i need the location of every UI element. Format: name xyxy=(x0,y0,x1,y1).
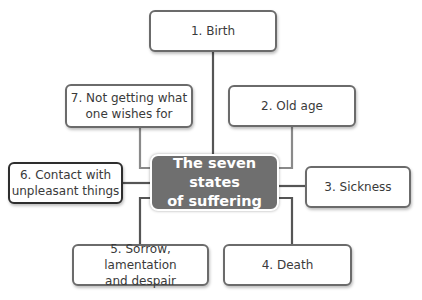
center-title-line1: The seven states xyxy=(152,154,277,192)
center-title-line2: of suffering xyxy=(167,192,262,211)
node-label: 2. Old age xyxy=(261,98,323,114)
node-birth: 1. Birth xyxy=(149,10,277,52)
node-label: 1. Birth xyxy=(191,23,235,39)
node-label: 3. Sickness xyxy=(324,179,391,195)
node-label-line1: 6. Contact with xyxy=(20,167,111,183)
diagram-canvas: 1. Birth 7. Not getting what one wishes … xyxy=(0,0,422,300)
node-contact-unpleasant: 6. Contact with unpleasant things xyxy=(8,162,123,204)
node-label: 4. Death xyxy=(262,257,314,273)
node-old-age: 2. Old age xyxy=(228,85,356,127)
node-death: 4. Death xyxy=(223,244,352,286)
center-node: The seven states of suffering xyxy=(150,154,279,211)
node-not-getting-wishes: 7. Not getting what one wishes for xyxy=(65,84,193,128)
node-label-line2: one wishes for xyxy=(85,106,172,122)
node-label-line1: 7. Not getting what xyxy=(71,90,187,106)
node-label-line1: 5. Sorrow, lamentation xyxy=(74,241,207,273)
node-label-line2: and despair xyxy=(105,273,176,289)
node-sorrow: 5. Sorrow, lamentation and despair xyxy=(72,244,209,286)
node-sickness: 3. Sickness xyxy=(305,166,411,208)
node-label-line2: unpleasant things xyxy=(12,183,120,199)
